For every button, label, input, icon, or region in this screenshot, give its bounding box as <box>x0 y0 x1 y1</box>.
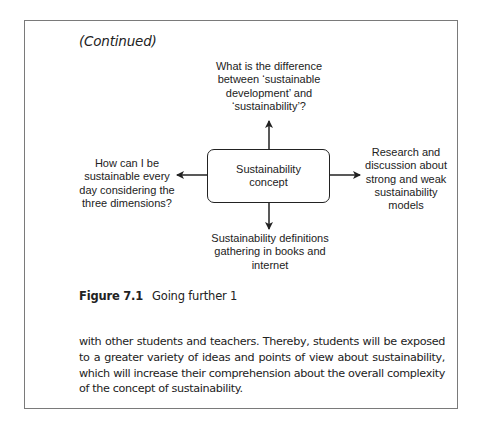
node-right-line: Research and <box>358 146 454 159</box>
figure-caption: Figure 7.1Going further 1 <box>79 289 237 303</box>
node-top-line: between ‘sustainable <box>207 73 331 86</box>
center-box-line: concept <box>236 176 301 190</box>
diagram-node-left: How can I be sustainable every day consi… <box>76 157 178 210</box>
node-right-line: models <box>358 199 454 212</box>
node-bottom-line: internet <box>200 259 340 272</box>
diagram-node-right: Research and discussion about strong and… <box>358 146 454 212</box>
body-paragraph-container: with other students and teachers. Thereb… <box>79 334 445 397</box>
continued-label: (Continued) <box>79 33 157 49</box>
figure-title: Going further 1 <box>152 289 237 303</box>
node-left-line: sustainable every <box>76 170 178 183</box>
node-left-line: How can I be <box>76 157 178 170</box>
node-bottom-line: Sustainability definitions <box>200 232 340 245</box>
diagram-node-bottom: Sustainability definitions gathering in … <box>200 232 340 272</box>
body-paragraph: with other students and teachers. Thereb… <box>79 334 445 397</box>
node-left-line: day considering the <box>76 184 178 197</box>
node-top-line: ‘sustainability’? <box>207 100 331 113</box>
node-right-line: sustainability <box>358 186 454 199</box>
center-box-line: Sustainability <box>236 163 301 177</box>
node-top-line: development’ and <box>207 87 331 100</box>
node-right-line: discussion about <box>358 159 454 172</box>
node-right-line: strong and weak <box>358 173 454 186</box>
figure-number: Figure 7.1 <box>79 289 143 303</box>
diagram-center-box: Sustainability concept <box>207 149 330 203</box>
node-bottom-line: gathering in books and <box>200 245 340 258</box>
node-left-line: three dimensions? <box>76 197 178 210</box>
diagram-node-top: What is the difference between ‘sustaina… <box>207 60 331 113</box>
node-top-line: What is the difference <box>207 60 331 73</box>
